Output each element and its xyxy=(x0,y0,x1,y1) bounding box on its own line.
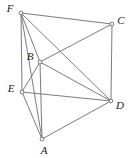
vertex-point-c xyxy=(110,22,114,26)
edge-f-e xyxy=(21,13,22,92)
vertex-point-b xyxy=(38,60,42,64)
vertex-point-a xyxy=(40,137,44,141)
labels-group: ABCDEF xyxy=(6,2,126,156)
edge-e-a xyxy=(22,92,42,139)
edge-c-d xyxy=(111,24,112,101)
geometric-figure-canvas: ABCDEF xyxy=(0,0,130,158)
edge-c-b xyxy=(40,24,112,62)
edge-f-d xyxy=(21,13,111,101)
vertex-label-b: B xyxy=(27,50,34,62)
vertex-label-a: A xyxy=(40,144,48,156)
vertex-point-d xyxy=(109,99,113,103)
vertex-point-e xyxy=(20,90,24,94)
figure-svg: ABCDEF xyxy=(0,0,130,158)
vertex-label-c: C xyxy=(117,14,125,26)
vertex-label-e: E xyxy=(7,82,15,94)
vertex-label-f: F xyxy=(6,2,14,14)
edge-a-d xyxy=(42,101,111,139)
vertex-label-d: D xyxy=(115,99,124,111)
vertex-point-f xyxy=(19,11,23,15)
edges-group xyxy=(21,13,112,139)
edge-f-c xyxy=(21,13,112,24)
edge-b-e xyxy=(22,62,40,92)
